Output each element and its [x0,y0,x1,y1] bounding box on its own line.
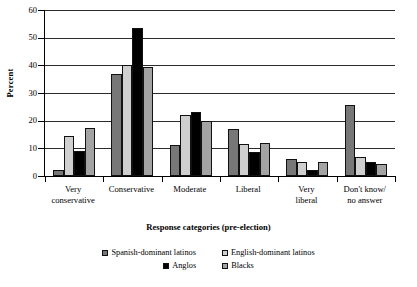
bar [111,74,122,176]
legend-label: Blacks [231,261,254,270]
bar [64,136,75,176]
bar-chart-figure: Percent 0102030405060 VeryconservativeCo… [0,0,417,287]
x-axis-category-label: Conservative [102,184,160,205]
bar [132,28,143,176]
y-axis-tick-label: 0 [13,172,37,181]
category-label-line: Don't know/ [336,184,394,195]
legend-swatch-icon [163,263,169,269]
bar-group [278,10,336,176]
bar [122,65,133,176]
category-label-line: no answer [336,195,394,206]
legend-row-1: Spanish-dominant latinosEnglish-dominant… [0,248,417,257]
x-axis-separator [278,176,279,182]
bar-group [103,10,161,176]
legend-swatch-icon [222,263,228,269]
y-axis-tick [38,121,45,122]
bar [239,144,250,176]
x-axis-category-label: Veryconservative [44,184,102,205]
x-axis-separator [162,176,163,182]
bar [191,112,202,176]
y-axis-tick [38,93,45,94]
bar [318,162,329,176]
y-axis-tick-label: 50 [13,33,37,42]
category-label-line: Very [277,184,335,195]
bar [366,162,377,176]
bar-group [162,10,220,176]
category-label-line: Moderate [161,184,219,195]
legend-label: English-dominant latinos [231,248,315,257]
y-axis-tick [38,65,45,66]
legend-item: Spanish-dominant latinos [102,248,196,257]
legend-label: Spanish-dominant latinos [111,248,196,257]
legend-item: Blacks [222,261,254,270]
bar [297,162,308,176]
x-axis-separator [103,176,104,182]
y-axis-tick-label: 10 [13,144,37,153]
bar [260,143,271,176]
bar-group [45,10,103,176]
bar-group [337,10,395,176]
y-axis-tick-label: 40 [13,61,37,70]
x-axis-title: Response categories (pre-election) [0,222,417,232]
bar [201,121,212,176]
x-axis-separator [45,176,46,182]
category-label-line: Very [44,184,102,195]
legend-item: English-dominant latinos [222,248,315,257]
bar [345,105,356,176]
legend: Spanish-dominant latinosEnglish-dominant… [0,248,417,270]
x-axis-separator [220,176,221,182]
y-axis-tick [38,10,45,11]
x-axis-separator [395,176,396,182]
x-axis-separator [337,176,338,182]
bar [307,170,318,176]
category-label-line: Liberal [219,184,277,195]
bar [53,170,64,176]
bar [355,157,366,176]
legend-swatch-icon [222,250,228,256]
legend-item: Anglos [163,261,196,270]
x-axis-category-label: Liberal [219,184,277,205]
bar [228,129,239,176]
bar [85,128,96,176]
y-axis-tick-label: 60 [13,6,37,15]
category-label-line: liberal [277,195,335,206]
bar-group [220,10,278,176]
x-axis-category-label: Don't know/no answer [336,184,394,205]
bar [170,145,181,176]
bar [143,67,154,176]
plot-area: 0102030405060 [44,10,395,177]
legend-row-2: AnglosBlacks [0,261,417,270]
bar [249,152,260,176]
legend-swatch-icon [102,250,108,256]
x-axis-category-label: Moderate [161,184,219,205]
y-axis-tick-label: 30 [13,89,37,98]
bar [74,151,85,176]
y-axis-tick-label: 20 [13,116,37,125]
category-label-line: Conservative [102,184,160,195]
bar [286,159,297,176]
category-label-line: conservative [44,195,102,206]
legend-label: Anglos [172,261,196,270]
bar [180,115,191,176]
bar-groups [45,10,395,176]
y-axis-tick [38,38,45,39]
y-axis-tick [38,176,45,177]
x-axis-category-labels: VeryconservativeConservativeModerateLibe… [44,184,394,205]
y-axis-tick [38,148,45,149]
bar [376,164,387,176]
x-axis-category-label: Veryliberal [277,184,335,205]
